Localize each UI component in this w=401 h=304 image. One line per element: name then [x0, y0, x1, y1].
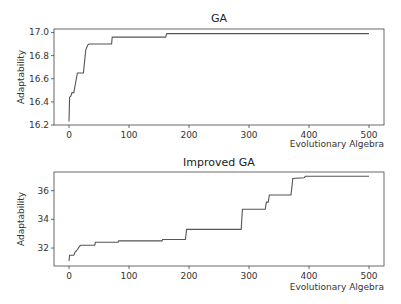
x-axis-label: Evolutionary Algebra	[290, 139, 384, 149]
x-tick-label: 100	[120, 130, 137, 140]
x-tick-label: 200	[180, 271, 197, 281]
x-tick-label: 500	[360, 271, 377, 281]
x-tick-label: 100	[120, 271, 137, 281]
y-tick-label: 32	[38, 243, 49, 253]
y-tick-label: 16.2	[29, 120, 49, 130]
y-tick-label: 17.0	[29, 27, 49, 37]
data-line	[69, 34, 369, 122]
chart-title: GA	[211, 12, 228, 25]
y-axis-label: Adaptability	[16, 49, 26, 104]
y-tick-label: 16.8	[29, 51, 49, 61]
improved-ga-chart: Improved GA0100200300400500323436Evoluti…	[16, 156, 384, 292]
x-tick-label: 300	[240, 130, 257, 140]
y-tick-label: 36	[38, 186, 50, 196]
y-tick-label: 16.6	[29, 74, 49, 84]
x-tick-label: 0	[66, 271, 72, 281]
y-tick-label: 34	[38, 214, 50, 224]
x-tick-label: 0	[66, 130, 72, 140]
x-axis-label: Evolutionary Algebra	[290, 282, 384, 292]
x-tick-label: 400	[300, 271, 317, 281]
axes-frame	[54, 29, 384, 125]
y-axis-label: Adaptability	[16, 191, 26, 246]
axes-frame	[54, 172, 384, 266]
data-line	[69, 176, 369, 261]
ga-chart: GA010020030040050016.216.416.616.817.0Ev…	[16, 12, 384, 149]
chart-title: Improved GA	[183, 156, 255, 169]
chart-figure: GA010020030040050016.216.416.616.817.0Ev…	[0, 0, 401, 304]
x-tick-label: 200	[180, 130, 197, 140]
x-tick-label: 300	[240, 271, 257, 281]
y-tick-label: 16.4	[29, 97, 49, 107]
